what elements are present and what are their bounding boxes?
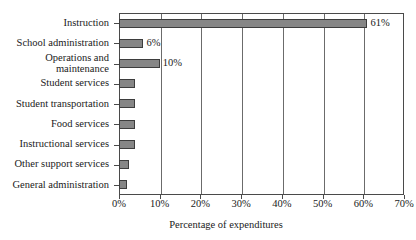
category-label-student-transportation: Student transportation <box>0 94 113 114</box>
x-axis-tick-label: 30% <box>221 199 261 210</box>
bar-value-operations-and-maintenance: 10% <box>163 58 182 69</box>
bar-chart: Instruction School administration Operat… <box>0 0 416 240</box>
category-label-text: Student transportation <box>16 99 109 110</box>
bar-instruction <box>119 19 367 28</box>
bar-row-school-administration: 6% <box>119 33 404 53</box>
bar-row-general-administration <box>119 175 404 195</box>
category-label-text: Food services <box>51 119 109 130</box>
category-label-text-line2: maintenance <box>45 64 109 75</box>
category-label-text: Operations and <box>45 53 109 64</box>
category-axis-labels: Instruction School administration Operat… <box>0 13 113 195</box>
category-label-operations-and-maintenance: Operations and maintenance <box>0 53 113 73</box>
bar-student-transportation <box>119 99 135 108</box>
x-axis-title: Percentage of expenditures <box>0 219 416 230</box>
bar-value-instruction: 61% <box>370 18 389 29</box>
x-axis-tick-label: 10% <box>140 199 180 210</box>
category-label-instructional-services: Instructional services <box>0 134 113 154</box>
category-label-instruction: Instruction <box>0 13 113 33</box>
bar-row-student-services <box>119 74 404 94</box>
category-label-school-administration: School administration <box>0 33 113 53</box>
bar-other-support-services <box>119 160 129 169</box>
category-label-text: Instructional services <box>19 139 109 150</box>
bar-value-school-administration: 6% <box>146 38 160 49</box>
bar-row-food-services <box>119 114 404 134</box>
bar-instructional-services <box>119 140 135 149</box>
category-label-text: Other support services <box>15 159 109 170</box>
category-label-food-services: Food services <box>0 114 113 134</box>
bar-row-student-transportation <box>119 94 404 114</box>
bar-row-instruction: 61% <box>119 13 404 33</box>
category-label-student-services: Student services <box>0 74 113 94</box>
bar-operations-and-maintenance <box>119 59 160 68</box>
category-label-general-administration: General administration <box>0 175 113 195</box>
x-axis-tick-label: 70% <box>384 199 416 210</box>
bar-school-administration <box>119 39 143 48</box>
x-axis-tick-label: 0% <box>99 199 139 210</box>
category-label-text: Instruction <box>64 18 110 29</box>
bar-student-services <box>119 79 135 88</box>
category-label-text: Student services <box>40 78 109 89</box>
x-axis-tick-label: 60% <box>343 199 383 210</box>
category-label-text: School administration <box>17 38 109 49</box>
x-axis-tick-label: 20% <box>180 199 220 210</box>
bar-row-instructional-services <box>119 134 404 154</box>
bar-row-operations-and-maintenance: 10% <box>119 53 404 73</box>
category-label-other-support-services: Other support services <box>0 155 113 175</box>
bar-row-other-support-services <box>119 155 404 175</box>
x-axis-tick-label: 40% <box>262 199 302 210</box>
x-axis-tick-label: 50% <box>303 199 343 210</box>
bar-general-administration <box>119 180 127 189</box>
bar-food-services <box>119 120 135 129</box>
category-label-text: General administration <box>12 180 109 191</box>
bars-container: 61% 6% 10% <box>119 13 404 195</box>
